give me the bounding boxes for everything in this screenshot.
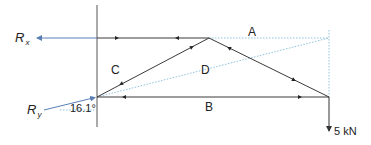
- arrow-up-right-icon: [189, 44, 194, 49]
- label-ry: Ry: [27, 103, 40, 116]
- dotted-resultant-line: [97, 38, 329, 97]
- label-region-d: D: [201, 64, 210, 76]
- arrow-left-icon: [122, 95, 126, 99]
- arrow-right-icon: [298, 95, 302, 99]
- label-region-a: A: [248, 26, 256, 38]
- label-rx: Rx: [15, 31, 28, 44]
- truss-diagram: [0, 0, 371, 145]
- truss-members: [97, 38, 329, 97]
- label-region-b: B: [205, 101, 213, 113]
- arrow-left-icon: [175, 36, 179, 40]
- arrow-right-icon: [115, 36, 119, 40]
- label-angle: 16.1°: [70, 103, 96, 114]
- arrow-down-right-icon: [291, 77, 296, 82]
- label-load: 5 kN: [334, 126, 357, 137]
- right-diagonal-member: [209, 38, 329, 97]
- label-region-c: C: [111, 64, 120, 76]
- arrow-up-left-icon: [226, 45, 231, 50]
